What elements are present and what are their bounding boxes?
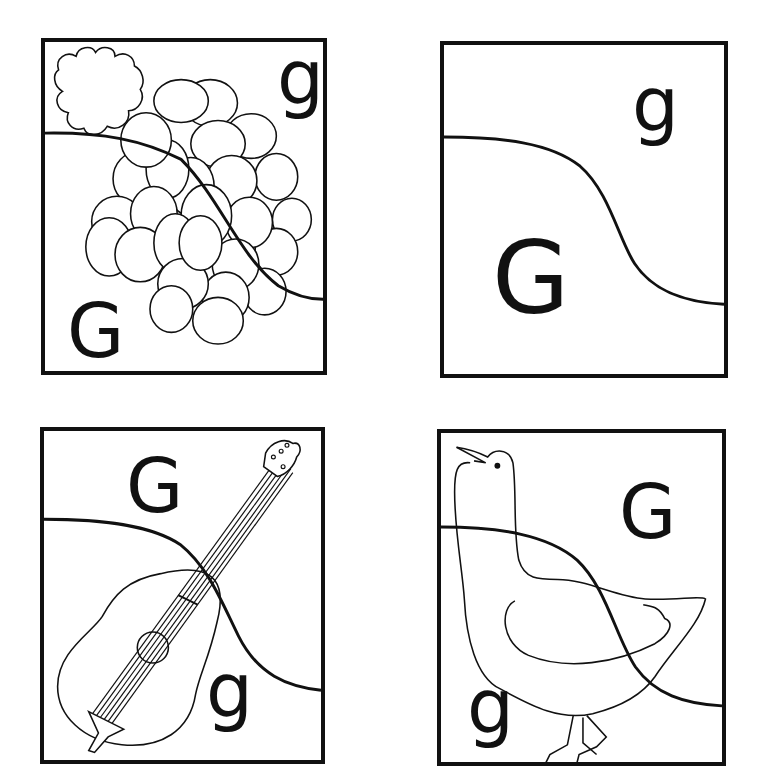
puzzle-card-grapes: g G (41, 38, 327, 375)
lowercase-letter: g (632, 67, 679, 141)
lowercase-letter: g (467, 669, 514, 743)
puzzle-card-goose: G g (437, 429, 726, 766)
puzzle-card-blank: g G (440, 41, 728, 378)
uppercase-letter: G (67, 294, 124, 368)
lowercase-letter: g (277, 40, 324, 114)
puzzle-card-guitar: G g (40, 427, 325, 764)
uppercase-letter: G (126, 449, 183, 523)
uppercase-letter: G (492, 229, 570, 329)
lowercase-letter: g (206, 653, 253, 727)
uppercase-letter: G (619, 475, 676, 549)
cut-line (444, 137, 724, 304)
